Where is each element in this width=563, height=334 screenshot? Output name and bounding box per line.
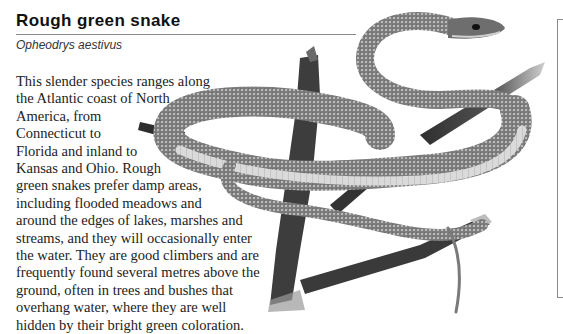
description-line: overhang water, where they are well — [16, 299, 316, 316]
description-line: green snakes prefer damp areas, — [16, 177, 316, 194]
description-line: America, from — [16, 108, 316, 125]
description-line: hidden by their bright green coloration. — [16, 317, 316, 334]
description-line: frequently found several metres above th… — [16, 264, 316, 281]
sidebar-bracket — [557, 19, 563, 298]
scientific-name: Opheodrys aestivus — [16, 38, 122, 52]
page-title: Rough green snake — [16, 11, 181, 31]
description-line: the Atlantic coast of North — [16, 90, 316, 107]
description-line: around the edges of lakes, marshes and — [16, 212, 316, 229]
description-line: the water. They are good climbers and ar… — [16, 247, 316, 264]
title-divider — [16, 34, 356, 35]
description-paragraph: This slender species ranges along the At… — [16, 73, 316, 334]
description-line: This slender species ranges along — [16, 73, 316, 90]
description-line: including flooded meadows and — [16, 195, 316, 212]
description-line: Connecticut to — [16, 125, 316, 142]
description-line: ground, often in trees and bushes that — [16, 282, 316, 299]
description-line: Kansas and Ohio. Rough — [16, 160, 316, 177]
description-line: streams, and they will occasionally ente… — [16, 230, 316, 247]
description-line: Florida and inland to — [16, 143, 316, 160]
